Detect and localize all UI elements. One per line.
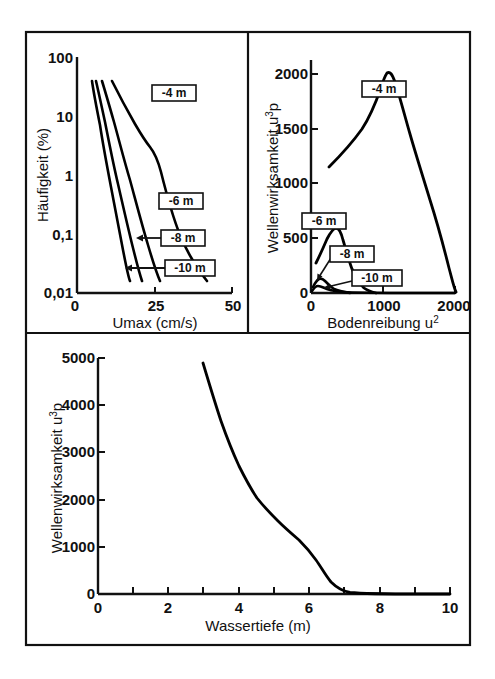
figure-root: 0 25 50 100 10 1 0,1 0,01 -4 m -6 m -8 m: [0, 0, 495, 679]
p3-x-axis-title: Wassertiefe (m): [205, 617, 310, 634]
p3-xtick-0: 0: [94, 599, 102, 616]
p3-y-axis-title: Wellenwirksamkeit u3p: [48, 403, 65, 553]
p1-label-minus-6m-text: -6 m: [169, 194, 194, 208]
p2-x-axis-title-base: Bodenreibung u: [327, 314, 433, 331]
p1-label-minus-6m: -6 m: [159, 193, 203, 209]
p3-ytick-5000: 5000: [62, 349, 95, 366]
p2-x-axis-title: Bodenreibung u2: [327, 314, 439, 331]
p2-y-axis-title-base-b: p: [264, 103, 281, 111]
p1-label-minus-10m-text: -10 m: [174, 261, 205, 275]
p3-y-axis-title-base-a: Wellenwirksamkeit u: [48, 417, 65, 553]
p3-ytick-1000: 1000: [62, 538, 95, 555]
p3-xtick-6: 6: [305, 599, 313, 616]
p2-xtick-1000: 1000: [367, 297, 400, 314]
p1-curve-minus-8m: [96, 81, 142, 281]
p2-ytick-500: 500: [283, 229, 308, 246]
p2-label-minus-4m: -4 m: [362, 81, 406, 97]
p1-x-axis-title: Umax (cm/s): [113, 314, 198, 331]
p1-arrow-8m-head: [136, 235, 143, 242]
p3-xtick-8: 8: [376, 599, 384, 616]
p1-ytick-10: 10: [56, 108, 73, 125]
p1-ytick-0-01: 0,01: [44, 284, 73, 301]
p1-xtick-50: 50: [225, 297, 242, 314]
p2-label-minus-4m-text: -4 m: [372, 82, 397, 96]
p1-label-minus-4m: -4 m: [152, 85, 196, 101]
p1-y-axis-title: Häufigkeit (%): [34, 128, 51, 222]
p3-xtick-10: 10: [442, 599, 459, 616]
p1-ytick-0-1: 0,1: [52, 226, 73, 243]
p3-xtick-2: 2: [164, 599, 172, 616]
p2-label-minus-6m-text: -6 m: [312, 214, 337, 228]
p3-ytick-4000: 4000: [62, 396, 95, 413]
p2-arrow-10m-line: [327, 281, 352, 287]
panel-top-left: 0 25 50 100 10 1 0,1 0,01 -4 m -6 m -8 m: [34, 49, 241, 331]
p2-label-minus-10m: -10 m: [323, 270, 402, 290]
p2-xtick-2000: 2000: [437, 297, 470, 314]
p2-label-minus-10m-text: -10 m: [361, 271, 392, 285]
p2-label-minus-6m: -6 m: [302, 213, 346, 229]
p2-label-minus-8m-text: -8 m: [340, 247, 365, 261]
p2-ytick-2000: 2000: [275, 65, 308, 82]
three-panel-figure: 0 25 50 100 10 1 0,1 0,01 -4 m -6 m -8 m: [0, 0, 495, 679]
p1-ytick-100: 100: [48, 49, 73, 66]
p1-label-minus-8m-text: -8 m: [171, 231, 196, 245]
p1-label-minus-4m-text: -4 m: [162, 86, 187, 100]
panel-top-right: 2000 1500 1000 500 0 0 1000 2000 -4 m -6…: [264, 60, 471, 331]
p3-curve-wellenwirksamkeit: [203, 363, 450, 594]
p3-ytick-3000: 3000: [62, 443, 95, 460]
p1-curve-minus-4m: [112, 81, 207, 281]
p1-xtick-25: 25: [148, 297, 165, 314]
p2-y-axis-title-base-a: Wellenwirksamkeit u: [264, 117, 281, 253]
p2-xtick-0: 0: [307, 297, 315, 314]
p3-ytick-2000: 2000: [62, 491, 95, 508]
panel-bottom: 5000 4000 3000 2000 1000 0 0 2 4 6 8 10 …: [48, 349, 458, 634]
p2-y-axis-title: Wellenwirksamkeit u3p: [264, 103, 281, 253]
p3-xtick-4: 4: [235, 599, 244, 616]
p3-y-axis-title-base-b: p: [48, 403, 65, 411]
p1-ytick-1: 1: [65, 167, 73, 184]
p2-x-axis-title-exponent: 2: [433, 314, 439, 325]
